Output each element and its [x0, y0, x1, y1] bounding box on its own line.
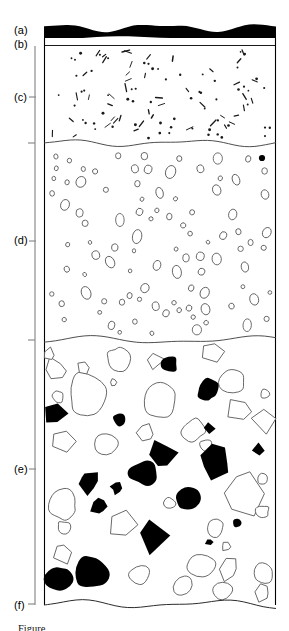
clast-open	[54, 545, 72, 564]
contact-d-e	[44, 336, 276, 343]
clast-open	[136, 424, 153, 441]
clast-dark	[90, 498, 107, 514]
clast-open	[44, 347, 54, 360]
contact-c-d	[44, 140, 276, 147]
unit-e-clasts	[44, 344, 276, 602]
clast-dark	[44, 567, 74, 591]
clast-dark	[128, 460, 157, 486]
figure-caption: Figure	[18, 622, 280, 631]
clast-open	[181, 418, 206, 442]
clast-open	[254, 563, 272, 584]
clast-open	[251, 409, 276, 434]
clast-open	[71, 372, 107, 415]
clast-dark	[252, 443, 265, 456]
clast-open	[208, 519, 224, 538]
stratigraphic-figure: (a)(b)(c)(d)(e)(f) Figure	[0, 0, 289, 631]
clast-dark	[140, 520, 170, 556]
clast-open	[129, 566, 150, 585]
clast-open	[258, 473, 268, 484]
unit-label-b: (b)	[14, 39, 28, 50]
unit-c-pattern	[52, 50, 271, 140]
clast-open	[255, 506, 269, 517]
clast-dark	[113, 414, 125, 427]
clast-open	[219, 558, 236, 581]
unit-a-black-cap	[44, 24, 276, 40]
clast-open	[228, 400, 252, 420]
clast-dark	[45, 404, 68, 423]
clast-open	[107, 347, 130, 371]
clast-open	[187, 554, 216, 576]
unit-label-a: (a)	[14, 25, 28, 36]
clast-open	[48, 488, 75, 520]
clast-open	[58, 522, 70, 534]
clast-open	[173, 576, 192, 595]
clast-open	[202, 344, 224, 362]
clast-open	[52, 391, 63, 403]
unit-b-band-fill	[44, 38, 276, 46]
unit-label-e: (e)	[14, 464, 28, 475]
unit-label-d: (d)	[14, 235, 28, 246]
clast-dark	[205, 540, 214, 545]
clast-open	[111, 379, 117, 386]
clast-open	[111, 510, 138, 535]
stratigraphic-column-graphic	[0, 0, 289, 631]
clast-open	[213, 582, 233, 600]
clast-open	[261, 389, 270, 398]
clast-open	[46, 357, 66, 379]
basal-contact-f	[44, 600, 276, 609]
clast-open	[144, 382, 175, 417]
unit-label-c: (c)	[14, 92, 27, 103]
clast-dark	[110, 482, 123, 495]
clast-dark	[79, 472, 98, 496]
clast-open	[95, 434, 119, 455]
unit-d-dark-grain	[259, 155, 265, 161]
clast-open	[163, 497, 176, 508]
clast-open	[223, 542, 231, 550]
clast-dark	[149, 440, 178, 466]
clast-dark	[176, 487, 201, 509]
clast-open	[255, 584, 268, 602]
clast-dark	[198, 378, 219, 401]
clast-open	[218, 370, 243, 393]
clast-open	[78, 362, 89, 374]
unit-label-f: (f)	[14, 600, 25, 611]
clast-dark	[75, 556, 109, 587]
unit-d-pattern	[49, 152, 272, 336]
clast-open	[53, 431, 77, 452]
clast-dark	[233, 519, 242, 527]
